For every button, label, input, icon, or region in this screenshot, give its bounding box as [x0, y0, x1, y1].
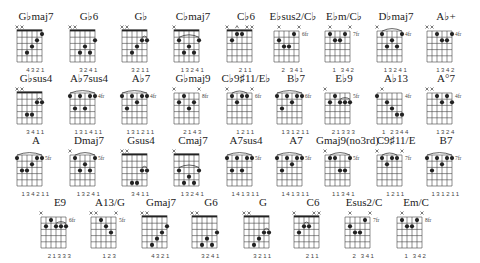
chord-name: E9 — [32, 196, 88, 208]
fretboard-grid — [168, 22, 218, 67]
finger-numbers: 21333 — [32, 253, 88, 260]
chord-name: G — [235, 196, 291, 208]
chord-diagram: G♭3211 — [113, 10, 169, 74]
chord-name: A♭7sus4 — [61, 72, 117, 84]
chord-name: Gmaj7 — [133, 196, 189, 208]
fretboard-grid — [221, 22, 271, 67]
fretboard-grid: 4fr — [421, 22, 471, 67]
fretboard-grid — [186, 208, 236, 253]
chord-diagram: G♭maj98fr2143 — [165, 72, 221, 136]
fretboard-grid — [11, 84, 61, 129]
fretboard-grid: 5fr — [319, 84, 369, 129]
fretboard-grid — [11, 22, 61, 67]
chord-diagram: Gsus43411 — [113, 134, 169, 198]
fretboard-grid: 8fr — [391, 208, 441, 253]
chord-diagram: C♭9♯11/E♭6fr1211 — [218, 72, 274, 136]
fret-position-label: 5fr — [353, 155, 360, 161]
chord-name: A♭13 — [368, 72, 424, 84]
chord-name: Gsus4 — [113, 134, 169, 146]
chord-diagram: Gmaj9(no3rd)5fr11341 — [316, 134, 372, 198]
fretboard-grid: 4fr — [371, 22, 421, 67]
finger-numbers: 4321 — [133, 253, 189, 260]
fretboard-grid: 5fr — [64, 146, 114, 191]
chord-name: E♭sus2/C♭ — [265, 10, 321, 22]
chord-diagram: A♭+4fr1342 — [418, 10, 474, 74]
fretboard-grid: 4fr — [421, 84, 471, 129]
fretboard-grid — [64, 22, 114, 67]
fret-position-label: 5fr — [255, 155, 262, 161]
chord-name: A7sus4 — [218, 134, 274, 146]
chord-name: B7 — [418, 134, 474, 146]
chord-name: G♭maj7 — [8, 10, 64, 22]
chord-name: C6 — [285, 196, 341, 208]
chord-name: Dmaj7 — [61, 134, 117, 146]
chord-diagram: C♭maj713241 — [165, 10, 221, 74]
fretboard-grid — [168, 146, 218, 191]
fret-position-label: 4fr — [405, 93, 412, 99]
chord-diagram: A♭74fr131211 — [113, 72, 169, 136]
chord-diagram: B77fr131211 — [418, 134, 474, 198]
chord-diagram: A13/G5fr123 — [82, 196, 138, 260]
chord-name: G♭6 — [61, 10, 117, 22]
fretboard-grid: 5fr — [271, 146, 321, 191]
chord-name: E♭9 — [316, 72, 372, 84]
fret-position-label: 6fr — [305, 93, 312, 99]
fret-position-label: 4fr — [98, 93, 105, 99]
chord-diagram: Dmaj75fr13241 — [61, 134, 117, 198]
fretboard-grid: 4fr — [116, 84, 166, 129]
chord-diagram: C9♯11/E7fr1211 — [368, 134, 424, 198]
fretboard-grid: 6fr — [271, 84, 321, 129]
fret-position-label: 5fr — [98, 155, 105, 161]
fret-position-label: 4fr — [405, 31, 412, 37]
chord-name: D♭maj7 — [368, 10, 424, 22]
fret-position-label: 7fr — [455, 155, 462, 161]
finger-numbers: 3211 — [235, 253, 291, 260]
chord-name: C♭9♯11/E♭ — [218, 72, 274, 84]
chord-diagram: G♭maj74321 — [8, 10, 64, 74]
fretboard-grid — [116, 22, 166, 67]
fret-position-label: 5fr — [353, 93, 360, 99]
chord-diagram: A♭7sus44fr131411 — [61, 72, 117, 136]
fretboard-grid: 8fr — [168, 84, 218, 129]
fretboard-grid: 6fr — [221, 84, 271, 129]
fretboard-grid: 5fr — [221, 146, 271, 191]
finger-numbers: 211 — [285, 253, 341, 260]
fret-position-label: 6fr — [255, 93, 262, 99]
chord-diagram: A7sus45fr141311 — [218, 134, 274, 198]
chord-diagram: Em/C8fr1 342 — [388, 196, 444, 260]
chord-name: C9♯11/E — [368, 134, 424, 146]
fretboard-grid: 5fr — [11, 146, 61, 191]
chord-diagram: Gmaj74321 — [133, 196, 189, 260]
fretboard-grid: 6fr — [268, 22, 318, 67]
chord-name: G♭ — [113, 10, 169, 22]
finger-numbers: 2 341 — [336, 253, 392, 260]
chord-diagram: E♭sus2/C♭6fr2 341 — [265, 10, 321, 74]
chord-diagram: C6211 — [285, 196, 341, 260]
chord-name: A♭+ — [418, 10, 474, 22]
fret-position-label: 7fr — [353, 31, 360, 37]
fretboard-grid: 4fr — [371, 84, 421, 129]
fretboard-grid — [288, 208, 338, 253]
fretboard-grid: 7fr — [371, 146, 421, 191]
chord-diagram: G♭sus43411 — [8, 72, 64, 136]
fret-position-label: 4fr — [455, 31, 462, 37]
chord-name: A°7 — [418, 72, 474, 84]
fret-position-label: 7fr — [373, 217, 380, 223]
chord-diagram: Cmaj713241 — [165, 134, 221, 198]
chord-name: Em/C — [388, 196, 444, 208]
chord-diagram: A5fr134211 — [8, 134, 64, 198]
finger-numbers: 1 342 — [388, 253, 444, 260]
finger-numbers: 3241 — [183, 253, 239, 260]
fret-position-label: 7fr — [405, 155, 412, 161]
fret-position-label: 5fr — [45, 155, 52, 161]
chord-diagram: Esus2/C7fr2 341 — [336, 196, 392, 260]
chord-diagram: G♭63241 — [61, 10, 117, 74]
fret-position-label: 8fr — [425, 217, 432, 223]
finger-numbers: 123 — [82, 253, 138, 260]
chord-name: Esus2/C — [336, 196, 392, 208]
fret-position-label: 6fr — [69, 217, 76, 223]
fret-position-label: 5fr — [305, 155, 312, 161]
fret-position-label: 8fr — [202, 93, 209, 99]
chord-diagram: E96fr21333 — [32, 196, 88, 260]
fret-position-label: 5fr — [119, 217, 126, 223]
